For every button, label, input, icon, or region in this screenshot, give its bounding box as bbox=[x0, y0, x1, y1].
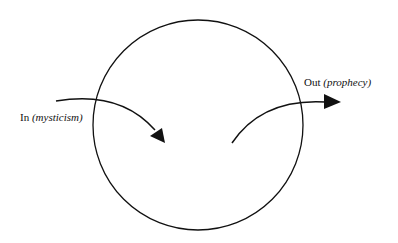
out-arrow-curve bbox=[232, 102, 326, 143]
circle bbox=[93, 20, 303, 230]
out-label: Out (prophecy) bbox=[304, 76, 371, 88]
out-label-paren: (prophecy) bbox=[323, 76, 371, 88]
out-label-main: Out bbox=[304, 76, 321, 88]
in-label-main: In bbox=[20, 111, 29, 123]
in-label: In (mysticism) bbox=[20, 111, 83, 123]
in-label-paren: (mysticism) bbox=[32, 111, 83, 123]
out-arrowhead-icon bbox=[324, 94, 341, 109]
in-arrowhead-icon bbox=[150, 128, 165, 143]
